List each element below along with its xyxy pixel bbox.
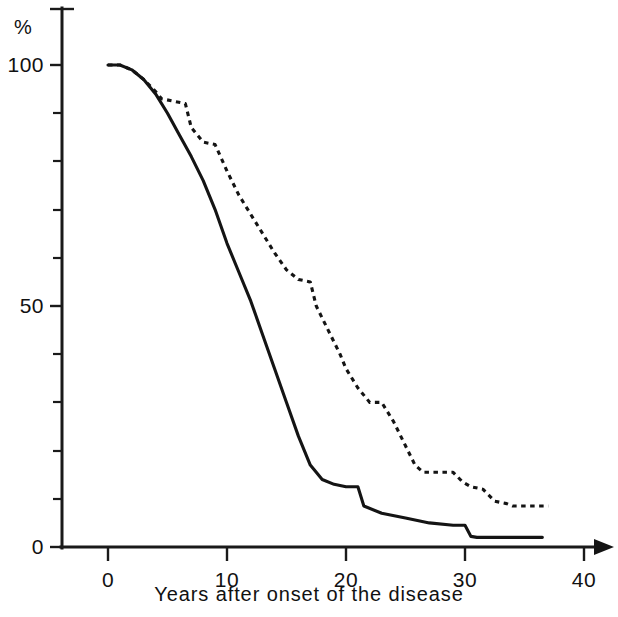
x-axis-major-ticks — [108, 547, 584, 561]
y-tick-label-0: 0 — [0, 535, 44, 559]
chart-plot-area — [0, 0, 618, 617]
x-axis-title: Years after onset of the disease — [0, 583, 618, 606]
y-axis-unit-label: % — [14, 16, 32, 39]
survival-chart-figure: % 100 50 0 0 10 20 30 40 Years after ons… — [0, 0, 618, 617]
x-axis-arrow-icon — [594, 539, 614, 555]
y-axis-major-ticks — [50, 65, 62, 547]
y-tick-label-50: 50 — [0, 294, 44, 318]
survival-curve-solid — [108, 65, 542, 537]
y-tick-label-100: 100 — [0, 53, 44, 77]
survival-curve-dashed — [108, 65, 548, 506]
